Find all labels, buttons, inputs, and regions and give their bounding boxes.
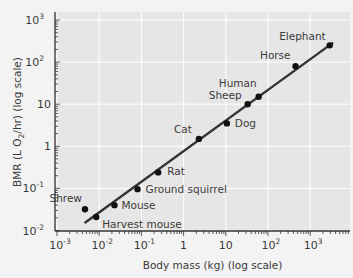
point-marker <box>196 136 202 142</box>
x-tick-label: 10-2 <box>91 237 113 252</box>
y-tick-label: 102 <box>25 54 44 69</box>
point-label: Elephant <box>279 30 326 42</box>
point-label: Mouse <box>121 199 155 211</box>
point-label: Ground squirrel <box>146 183 227 195</box>
point-label: Shrew <box>49 192 82 204</box>
x-tick-label: 10-3 <box>49 237 71 252</box>
point-label: Harvest mouse <box>102 218 181 230</box>
x-tick-label: 103 <box>304 237 323 252</box>
y-tick-label: 10-2 <box>23 223 45 238</box>
x-tick-label: 10 <box>219 239 233 252</box>
y-tick-label: 103 <box>25 12 44 27</box>
point-label: Cat <box>174 123 192 135</box>
point-marker <box>134 186 140 192</box>
point-marker <box>82 206 88 212</box>
point-marker <box>93 214 99 220</box>
point-marker <box>244 101 250 107</box>
y-tick-label: 10-1 <box>23 180 45 195</box>
scatter-plot: 10-310-210-111010210310310210110-110-2Bo… <box>0 0 353 278</box>
point-label: Dog <box>235 117 256 129</box>
data-point: Ground squirrel <box>134 183 226 195</box>
point-marker <box>292 63 298 69</box>
x-tick-label: 1 <box>180 239 187 252</box>
point-marker <box>224 120 230 126</box>
point-marker <box>111 202 117 208</box>
point-label: Rat <box>167 165 185 177</box>
point-label: Horse <box>260 49 291 61</box>
y-tick-label: 1 <box>44 140 51 153</box>
chart-figure: 10-310-210-111010210310310210110-110-2Bo… <box>0 0 353 278</box>
point-marker <box>255 94 261 100</box>
y-tick-label: 10 <box>37 98 51 111</box>
x-axis-title: Body mass (kg) (log scale) <box>143 259 283 271</box>
point-marker <box>155 169 161 175</box>
point-marker <box>327 42 333 48</box>
point-label: Sheep <box>209 89 242 101</box>
x-tick-label: 102 <box>262 237 281 252</box>
point-label: Human <box>219 77 257 89</box>
y-axis-title: BMR (L O2/hr) (log scale) <box>11 57 26 187</box>
x-tick-label: 10-1 <box>134 237 156 252</box>
